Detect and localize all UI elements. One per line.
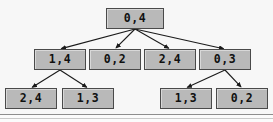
tree-edge xyxy=(187,70,225,87)
tree-edge xyxy=(61,29,135,49)
tree-edge xyxy=(225,70,241,87)
tree-edge xyxy=(135,29,169,48)
tree-node-n1[interactable]: 1,4 xyxy=(34,49,86,70)
tree-node-n5[interactable]: 2,4 xyxy=(5,88,57,109)
tree-node-n7[interactable]: 1,3 xyxy=(160,88,212,109)
tree-edge xyxy=(60,70,87,87)
tree-edge xyxy=(135,29,224,49)
tree-node-n0[interactable]: 0,4 xyxy=(106,8,164,29)
tree-node-n8[interactable]: 0,2 xyxy=(216,88,268,109)
footer-divider-bottom xyxy=(0,118,273,119)
footer-divider-top xyxy=(0,114,273,115)
tree-node-n3[interactable]: 2,4 xyxy=(144,49,196,70)
tree-diagram-figure: 0,4 1,4 0,2 2,4 0,3 2,4 1,3 1,3 0,2 xyxy=(0,0,273,122)
tree-node-n2[interactable]: 0,2 xyxy=(89,49,141,70)
tree-edge xyxy=(32,70,60,87)
tree-node-n6[interactable]: 1,3 xyxy=(62,88,114,109)
tree-node-n4[interactable]: 0,3 xyxy=(199,49,251,70)
